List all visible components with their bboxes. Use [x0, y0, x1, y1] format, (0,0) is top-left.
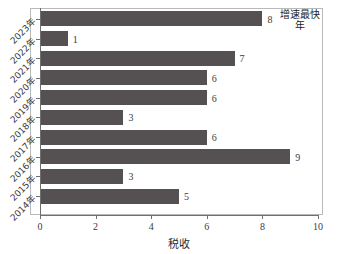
bar-row: 3: [40, 110, 318, 125]
bar-value-label: 9: [295, 151, 300, 162]
y-axis-tick: [36, 78, 40, 79]
x-axis-tick: [96, 215, 97, 219]
chart-title: [30, 0, 323, 2]
x-axis-title: 税收: [40, 235, 318, 251]
bar-value-label: 3: [128, 171, 133, 182]
bar: [40, 11, 262, 26]
x-axis-tick: [40, 215, 41, 219]
bar-chart: 8增速最快年176636935 0246810 2023年2022年2021年2…: [0, 0, 341, 254]
bar-value-label: 3: [128, 112, 133, 123]
x-axis-tick: [318, 215, 319, 219]
bar: [40, 110, 123, 125]
bar: [40, 130, 207, 145]
bar-row: 7: [40, 51, 318, 66]
bar-row: 5: [40, 189, 318, 204]
x-axis-line: [40, 215, 318, 216]
y-axis-tick: [36, 196, 40, 197]
x-axis-tick: [262, 215, 263, 219]
bar: [40, 31, 68, 46]
bar-value-label: 7: [240, 53, 245, 64]
bar-row: 3: [40, 169, 318, 184]
bar: [40, 90, 207, 105]
bar: [40, 70, 207, 85]
x-axis-label: 6: [195, 221, 219, 232]
x-axis-label: 2: [84, 221, 108, 232]
bar: [40, 51, 235, 66]
bar-row: 1: [40, 31, 318, 46]
plot-area: 8增速最快年176636935: [40, 9, 318, 206]
x-axis-label: 8: [250, 221, 274, 232]
x-axis-label: 4: [139, 221, 163, 232]
y-axis-tick: [36, 58, 40, 59]
y-axis-tick: [36, 117, 40, 118]
x-axis-tick: [207, 215, 208, 219]
bar: [40, 189, 179, 204]
bar: [40, 169, 123, 184]
bar-value-label: 6: [212, 132, 217, 143]
bar-row: 6: [40, 130, 318, 145]
bar-row: 6: [40, 90, 318, 105]
y-axis-tick: [36, 19, 40, 20]
bar-value-label: 8: [267, 13, 272, 24]
y-axis-line: [40, 8, 41, 215]
bar-annotation: 增速最快年: [278, 9, 322, 31]
bar-value-label: 6: [212, 72, 217, 83]
bar-value-label: 6: [212, 92, 217, 103]
y-axis-tick: [36, 176, 40, 177]
y-axis-tick: [36, 137, 40, 138]
y-axis-tick: [36, 157, 40, 158]
y-axis-tick: [36, 39, 40, 40]
bar-row: 9: [40, 149, 318, 164]
bar-value-label: 5: [184, 191, 189, 202]
x-axis-label: 0: [28, 221, 52, 232]
x-axis-label: 10: [306, 221, 330, 232]
y-axis-tick: [36, 98, 40, 99]
bar-row: 6: [40, 70, 318, 85]
bar: [40, 149, 290, 164]
x-axis-tick: [151, 215, 152, 219]
bar-row: 8增速最快年: [40, 11, 318, 26]
bar-value-label: 1: [73, 33, 78, 44]
